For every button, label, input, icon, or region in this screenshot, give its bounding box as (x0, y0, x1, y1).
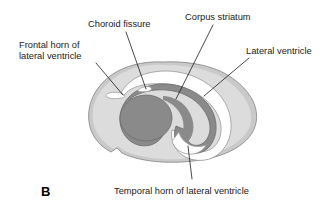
brain-lateral-ventricle-diagram: Choroid fissure Corpus striatum Lateral … (0, 0, 326, 208)
label-temporal-horn: Temporal horn of lateral ventricle (114, 186, 249, 196)
label-frontal-horn-line2: lateral ventricle (19, 51, 82, 61)
panel-letter: B (41, 184, 50, 199)
figure-panel: Choroid fissure Corpus striatum Lateral … (0, 0, 326, 208)
label-lateral-ventricle: Lateral ventricle (246, 46, 312, 56)
label-choroid-fissure: Choroid fissure (88, 19, 151, 29)
lentiform-nucleus-shape (120, 95, 172, 141)
label-frontal-horn-line1: Frontal horn of (19, 40, 80, 50)
label-corpus-striatum: Corpus striatum (185, 12, 251, 22)
